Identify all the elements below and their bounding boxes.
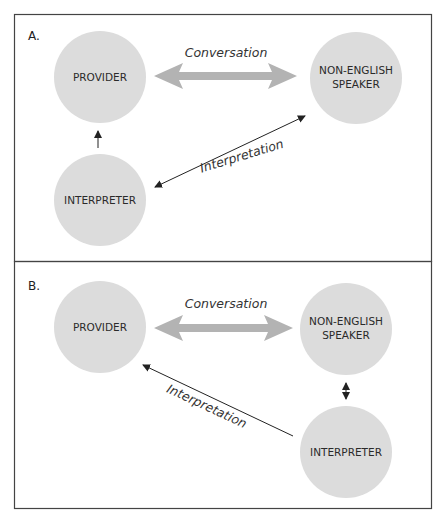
conversation-label-b: Conversation: [185, 296, 268, 311]
panel-b: B. PROVIDER NON-ENGLISH SPEAKER INTERPRE…: [15, 262, 432, 509]
panel-a: A. PROVIDER NON-ENGLISH SPEAKER INTERPRE…: [15, 15, 432, 262]
svg-text:INTERPRETER: INTERPRETER: [310, 446, 382, 458]
svg-text:NON-ENGLISH: NON-ENGLISH: [309, 315, 383, 327]
interpretation-label-a: Interpretation: [198, 136, 285, 176]
interpreter-models-diagram: A. PROVIDER NON-ENGLISH SPEAKER INTERPRE…: [0, 0, 446, 527]
svg-text:SPEAKER: SPEAKER: [332, 78, 380, 90]
conversation-label-a: Conversation: [185, 45, 268, 60]
interpretation-arrow-b: [143, 365, 293, 436]
panel-b-label: B.: [28, 279, 40, 293]
node-speaker-b: NON-ENGLISH SPEAKER: [300, 283, 392, 375]
svg-text:SPEAKER: SPEAKER: [322, 329, 370, 341]
svg-text:PROVIDER: PROVIDER: [73, 71, 127, 83]
node-provider-b: PROVIDER: [54, 281, 146, 373]
node-interpreter-b: INTERPRETER: [300, 406, 392, 498]
node-provider-a: PROVIDER: [54, 31, 146, 123]
interpretation-label-b: Interpretation: [164, 381, 249, 431]
conversation-arrow-b: [154, 315, 293, 341]
svg-text:NON-ENGLISH: NON-ENGLISH: [319, 64, 393, 76]
conversation-arrow-a: [154, 63, 297, 89]
svg-text:PROVIDER: PROVIDER: [73, 321, 127, 333]
node-speaker-a: NON-ENGLISH SPEAKER: [310, 32, 402, 124]
node-interpreter-a: INTERPRETER: [54, 154, 146, 246]
svg-text:INTERPRETER: INTERPRETER: [64, 194, 136, 206]
panel-a-label: A.: [28, 29, 40, 43]
